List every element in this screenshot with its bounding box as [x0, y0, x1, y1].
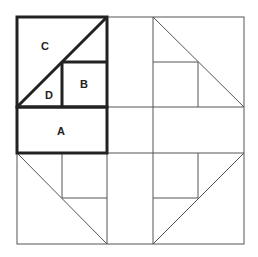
thin-grid	[17, 17, 244, 244]
inner-square-bottom-right	[153, 153, 198, 198]
inner-square-top-right	[153, 62, 198, 107]
quilt-block-diagram: C B D A	[0, 0, 258, 257]
label-b: B	[80, 78, 88, 90]
outer-square	[17, 17, 244, 244]
inner-square-bottom-left	[62, 153, 107, 198]
label-d: D	[45, 89, 53, 101]
label-c: C	[41, 40, 49, 52]
label-a: A	[57, 125, 65, 137]
